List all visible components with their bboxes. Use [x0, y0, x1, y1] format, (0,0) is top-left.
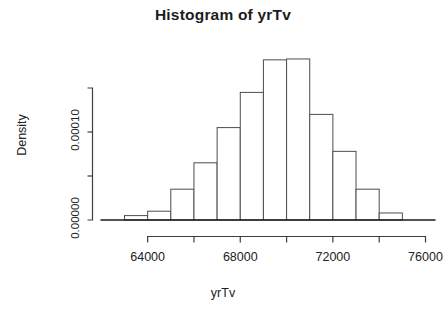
y-axis-label: Density: [15, 75, 29, 195]
histogram-bar: [356, 189, 379, 220]
x-tick-label: 64000: [130, 250, 165, 264]
bars-layer: [125, 59, 403, 220]
y-tick-label: 0.00010: [69, 99, 81, 161]
plot-canvas: [0, 0, 446, 316]
histogram-bar: [194, 163, 217, 220]
histogram-plot: Histogram of yrTv 0.000000.00010 6400068…: [0, 0, 446, 316]
histogram-bar: [263, 60, 286, 220]
histogram-bar: [148, 211, 171, 220]
histogram-bar: [171, 189, 194, 220]
x-axis: [148, 237, 426, 243]
y-axis-spine: [88, 88, 93, 220]
y-tick-label: 0.00000: [69, 187, 81, 249]
y-axis: [88, 88, 93, 220]
histogram-bar: [333, 151, 356, 220]
x-axis-label: yrTv: [0, 286, 446, 300]
histogram-bar: [287, 59, 310, 220]
histogram-bar: [240, 92, 263, 220]
x-tick-label: 72000: [315, 250, 350, 264]
x-tick-label: 68000: [223, 250, 258, 264]
histogram-bar: [379, 213, 402, 220]
histogram-bar: [217, 128, 240, 220]
x-tick-label: 76000: [408, 250, 443, 264]
histogram-bar: [310, 114, 333, 220]
